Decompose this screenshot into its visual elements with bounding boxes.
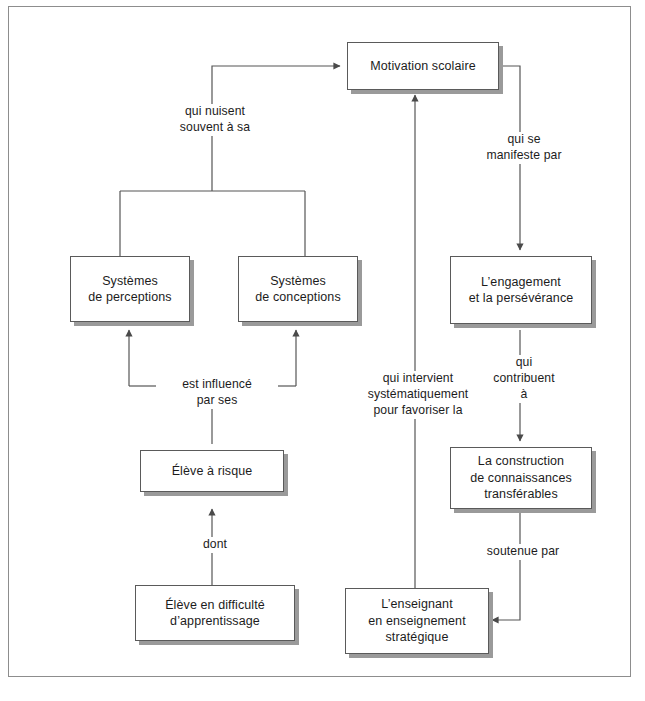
node-engagement-perseverance-label: L’engagementet la persévérance [469,274,574,307]
node-systemes-de-perceptions[interactable]: Systèmesde perceptions [70,256,190,322]
node-eleve-en-difficulte[interactable]: Élève en difficultéd’apprentissage [135,585,295,641]
edge-label-qui-contribuent-a: quicontribuentà [482,355,566,403]
edge-label-qui-intervient: qui intervientsystématiquementpour favor… [341,371,495,419]
node-systemes-de-conceptions[interactable]: Systèmesde conceptions [238,256,358,322]
node-enseignant-strategique[interactable]: L’enseignanten enseignementstratégique [345,588,489,654]
node-eleve-a-risque-label: Élève à risque [172,463,253,480]
node-motivation-scolaire-label: Motivation scolaire [370,58,475,75]
node-eleve-a-risque[interactable]: Élève à risque [140,450,284,492]
edge-label-qui-se-manifeste-par: qui semanifeste par [462,132,586,164]
edge-label-qui-nuisent: qui nuisentsouvent à sa [152,104,278,136]
node-engagement-perseverance[interactable]: L’engagementet la persévérance [450,256,592,324]
edge-label-soutenue-par: soutenue par [466,544,580,560]
diagram-frame [8,6,631,677]
diagram-canvas: Motivation scolaire Systèmesde perceptio… [0,0,645,701]
edge-label-dont: dont [182,537,248,553]
node-systemes-de-conceptions-label: Systèmesde conceptions [255,273,341,306]
node-systemes-de-perceptions-label: Systèmesde perceptions [88,273,171,306]
node-enseignant-strategique-label: L’enseignanten enseignementstratégique [368,596,465,646]
node-construction-connaissances-label: La constructionde connaissancestransféra… [470,453,572,503]
node-motivation-scolaire[interactable]: Motivation scolaire [347,42,499,90]
edge-label-est-influence-par-ses: est influencépar ses [156,377,278,409]
node-eleve-en-difficulte-label: Élève en difficultéd’apprentissage [165,597,265,630]
node-construction-connaissances[interactable]: La constructionde connaissancestransféra… [450,447,592,509]
